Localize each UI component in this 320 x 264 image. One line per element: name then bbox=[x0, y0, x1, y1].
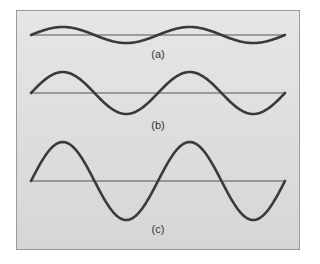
label-a: (a) bbox=[138, 48, 178, 60]
label-b: (b) bbox=[138, 119, 178, 131]
label-c: (c) bbox=[138, 223, 178, 235]
